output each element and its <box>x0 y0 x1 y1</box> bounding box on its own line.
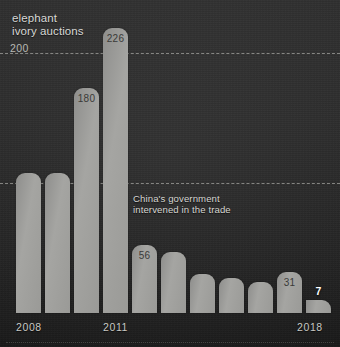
bar-2013[interactable] <box>161 252 186 313</box>
bar-2010[interactable]: 180 <box>74 88 99 313</box>
bar-value-2012: 56 <box>132 250 157 261</box>
chart-annotation: China's government intervened in the tra… <box>133 194 231 215</box>
bar-2014[interactable] <box>190 274 215 313</box>
chart-canvas: elephant ivory auctions 200 18022656317 … <box>0 0 340 347</box>
x-tick-2018: 2018 <box>297 321 323 333</box>
bar-2016[interactable] <box>248 282 273 313</box>
bar-2015[interactable] <box>219 278 244 313</box>
bars-container: 18022656317 <box>0 0 340 347</box>
x-tick-2008: 2008 <box>16 321 42 333</box>
bar-2008[interactable] <box>16 173 41 313</box>
bar-2012[interactable]: 56 <box>132 245 157 313</box>
bottom-rule <box>6 342 334 343</box>
bar-value-2010: 180 <box>74 93 99 104</box>
bar-value-2011: 226 <box>103 33 128 44</box>
bar-2018[interactable]: 7 <box>306 300 331 313</box>
bar-2011[interactable]: 226 <box>103 28 128 313</box>
bar-2017[interactable]: 31 <box>277 272 302 313</box>
bar-value-2018: 7 <box>306 285 331 297</box>
bar-2009[interactable] <box>45 173 70 313</box>
bar-value-2017: 31 <box>277 277 302 288</box>
x-tick-2011: 2011 <box>103 321 128 333</box>
